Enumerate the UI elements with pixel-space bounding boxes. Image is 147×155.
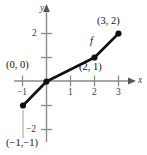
graph-canvas [0, 0, 147, 155]
y-axis-label: y [40, 4, 44, 14]
x-tick-label-neg1: −1 [17, 88, 27, 98]
x-tick-label-1: 1 [68, 88, 73, 98]
point-label-2-1: (2, 1) [79, 62, 102, 73]
data-point-2-1 [91, 54, 97, 60]
point-label-3-2: (3, 2) [97, 16, 120, 27]
graph-figure: y x −1 1 2 3 2 −2 (0, 0) (2, 1) (3, 2) (… [0, 0, 147, 155]
x-axis-arrow [128, 78, 136, 85]
y-tick-label-neg2: −2 [26, 125, 36, 135]
function-label-f: f [90, 36, 93, 47]
point-label-neg1-neg1: (−1,−1) [6, 138, 38, 149]
data-point-neg1-neg1 [20, 102, 26, 108]
data-point-origin [43, 78, 49, 84]
x-axis-label: x [138, 76, 142, 86]
point-label-origin: (0, 0) [6, 60, 29, 71]
x-tick-label-3: 3 [116, 88, 121, 98]
y-tick-label-2: 2 [32, 29, 37, 39]
x-tick-label-2: 2 [92, 88, 97, 98]
data-point-3-2 [115, 30, 121, 36]
